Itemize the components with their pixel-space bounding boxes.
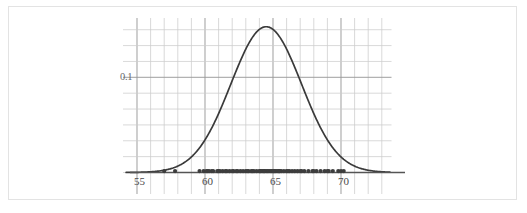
data-point — [258, 169, 262, 173]
data-point — [286, 169, 290, 173]
data-point — [325, 169, 329, 173]
data-point — [245, 169, 249, 173]
grid-minor-horizontal — [123, 30, 392, 173]
data-point — [262, 169, 266, 173]
figure-container: 55606570 0.1 — [0, 0, 527, 213]
data-point — [331, 169, 335, 173]
data-point — [207, 169, 211, 173]
data-point — [217, 169, 221, 173]
data-point — [173, 169, 177, 173]
data-point — [211, 169, 215, 173]
x-tick-label-60: 60 — [202, 175, 213, 187]
density-plot — [0, 0, 527, 213]
data-point — [251, 169, 255, 173]
x-tick-label-55: 55 — [134, 175, 145, 187]
x-tick-label-65: 65 — [270, 175, 281, 187]
normal-curve — [126, 27, 390, 173]
data-point — [299, 169, 303, 173]
data-point — [162, 169, 166, 173]
data-point — [319, 169, 323, 173]
data-point — [277, 169, 281, 173]
data-point — [306, 169, 310, 173]
data-point — [272, 169, 276, 173]
y-tick-label-0-1: 0.1 — [120, 71, 132, 82]
data-point — [223, 169, 227, 173]
data-point — [342, 169, 346, 173]
x-tick-label-70: 70 — [338, 175, 349, 187]
data-point — [230, 169, 234, 173]
data-point — [234, 169, 238, 173]
data-point — [312, 169, 316, 173]
data-point — [197, 169, 201, 173]
